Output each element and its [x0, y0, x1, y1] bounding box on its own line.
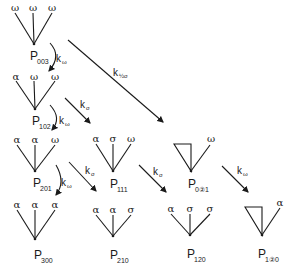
- ring-triangle: [245, 207, 262, 235]
- curved-arrow: [50, 105, 57, 130]
- leaf-alpha: α: [93, 204, 100, 215]
- node-subscript: 0②1: [195, 186, 209, 193]
- edge-p111-p120: k σ: [139, 165, 166, 192]
- rate-subscript: ω: [62, 59, 67, 65]
- leaf-alpha: α: [13, 71, 20, 82]
- node-subscript: 120: [194, 256, 206, 263]
- leaf-omega: ω: [29, 2, 37, 13]
- node-subscript: 300: [41, 257, 53, 264]
- edge-p102-p111: k σ: [65, 98, 90, 123]
- node-p120: α σ σ P 120: [168, 203, 214, 263]
- edge-p003-p102: k ω: [49, 43, 67, 71]
- leaf-sigma: σ: [207, 203, 214, 214]
- node-p210: α α σ P 210: [93, 204, 135, 264]
- ring-triangle: [174, 144, 191, 171]
- leaf-omega: ω: [127, 133, 135, 144]
- node-p111: α σ ω P 111: [93, 133, 135, 193]
- node-subscript: 1②0: [265, 256, 279, 263]
- leaf-sigma: σ: [110, 133, 117, 144]
- leaf-alpha: α: [32, 199, 39, 210]
- rate-subscript: ω: [67, 183, 72, 189]
- leaf-alpha: α: [93, 133, 100, 144]
- leaf-alpha: α: [14, 199, 21, 210]
- leaf-omega: ω: [11, 2, 19, 13]
- leaf-omega: ω: [48, 2, 56, 13]
- diagonal-arrow: [222, 166, 248, 192]
- rate-subscript: ½σ: [119, 73, 128, 79]
- leaf-alpha: α: [14, 134, 21, 145]
- rate-subscript: σ: [159, 172, 163, 178]
- leaf-alpha: α: [52, 199, 59, 210]
- rate-subscript: σ: [91, 171, 95, 177]
- leaf-omega: ω: [51, 134, 59, 145]
- edge-p201-p210: k σ: [69, 162, 96, 191]
- leaf-alpha: α: [168, 203, 175, 214]
- node-p201: α α ω P 201: [14, 134, 59, 192]
- node-subscript: 111: [117, 186, 128, 193]
- node-p300: α α α P 300: [14, 199, 59, 264]
- edge-p201-p300: k ω: [56, 165, 72, 195]
- node-p102: α ω ω P 102: [13, 71, 59, 130]
- leaf-sigma: σ: [187, 203, 194, 214]
- leaf-omega: ω: [30, 71, 38, 82]
- leaf-sigma: σ: [128, 204, 135, 215]
- node-subscript: 003: [37, 58, 49, 65]
- node-p003: ω ω ω P 003: [11, 2, 56, 65]
- node-subscript: 102: [39, 123, 51, 130]
- rate-subscript: ω: [65, 121, 70, 127]
- leaf-omega: ω: [207, 133, 215, 144]
- leaf-alpha: α: [110, 204, 117, 215]
- node-subscript: 210: [117, 257, 129, 264]
- edge-p021-p120r: k ω: [222, 165, 248, 192]
- rate-subscript: ω: [243, 171, 248, 177]
- rate-subscript: σ: [86, 105, 90, 111]
- reaction-diagram: ω ω ω P 003 α ω ω P 102 α α ω P 201 α α …: [0, 0, 291, 274]
- node-subscript: 201: [40, 185, 52, 192]
- node-p0-ring-1: ω P 0②1: [174, 133, 215, 193]
- leaf-alpha: α: [32, 134, 39, 145]
- node-p1-ring-0: α P 1②0: [245, 197, 284, 263]
- leaf-omega: ω: [51, 71, 59, 82]
- curved-arrow: [49, 43, 56, 71]
- edge-p102-p201: k ω: [50, 105, 70, 130]
- leaf-alpha: α: [277, 197, 284, 208]
